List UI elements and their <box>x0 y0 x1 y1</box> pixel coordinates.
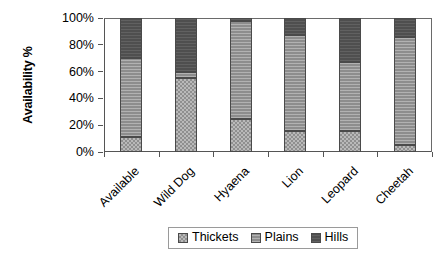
y-axis-title: Availability % <box>21 15 35 155</box>
bar-segment-thickets[interactable] <box>175 78 197 152</box>
bar-stack[interactable] <box>175 18 197 152</box>
y-tick-mark <box>98 71 103 72</box>
legend-label: Hills <box>325 231 349 244</box>
bar-segment-thickets[interactable] <box>394 145 416 152</box>
bar-segment-thickets[interactable] <box>230 119 252 153</box>
bar-stack[interactable] <box>394 18 416 152</box>
bar-segment-hills[interactable] <box>175 18 197 72</box>
x-tick-mark <box>323 152 324 157</box>
bar-segment-hills[interactable] <box>120 18 142 58</box>
y-tick-mark <box>98 18 103 19</box>
x-tick-mark <box>268 152 269 157</box>
chart-legend: ThicketsPlainsHills <box>168 227 358 249</box>
x-tick-mark <box>159 152 160 157</box>
y-axis-ticks: 0%20%40%60%80%100% <box>50 18 104 152</box>
bar-group <box>104 18 159 152</box>
y-tick-mark <box>98 125 103 126</box>
legend-swatch-plains-icon <box>251 233 261 243</box>
stacked-bar-chart: Availability % 0%20%40%60%80%100% Availa… <box>0 0 444 273</box>
bar-stack[interactable] <box>284 18 306 152</box>
x-tick-label: Available <box>0 164 142 273</box>
y-tick-label: 40% <box>48 91 94 105</box>
x-tick-mark <box>104 152 105 157</box>
bar-group <box>159 18 214 152</box>
bar-group <box>377 18 432 152</box>
y-tick-label: 100% <box>48 11 94 25</box>
bar-segment-hills[interactable] <box>230 18 252 21</box>
legend-label: Thickets <box>192 231 239 244</box>
bar-segment-thickets[interactable] <box>120 137 142 152</box>
bar-group <box>323 18 378 152</box>
legend-item-plains[interactable]: Plains <box>251 231 299 244</box>
bar-group <box>268 18 323 152</box>
y-tick-mark <box>98 44 103 45</box>
y-tick-mark <box>98 98 103 99</box>
y-tick-label: 0% <box>48 145 94 159</box>
bar-stack[interactable] <box>230 18 252 152</box>
bar-segment-plains[interactable] <box>284 35 306 130</box>
bar-stack[interactable] <box>120 18 142 152</box>
bar-segment-hills[interactable] <box>339 18 361 62</box>
x-tick-mark <box>377 152 378 157</box>
legend-item-hills[interactable]: Hills <box>311 231 349 244</box>
x-tick-mark <box>213 152 214 157</box>
bar-segment-plains[interactable] <box>120 58 142 137</box>
bar-stack[interactable] <box>339 18 361 152</box>
bar-segment-thickets[interactable] <box>339 131 361 152</box>
legend-item-thickets[interactable]: Thickets <box>178 231 239 244</box>
y-tick-label: 80% <box>48 38 94 52</box>
bar-segment-hills[interactable] <box>284 18 306 35</box>
y-tick-label: 60% <box>48 65 94 79</box>
y-tick-mark <box>98 152 103 153</box>
bar-segment-plains[interactable] <box>339 62 361 130</box>
bar-segment-plains[interactable] <box>175 72 197 79</box>
x-tick-mark <box>432 152 433 157</box>
bar-segment-thickets[interactable] <box>284 131 306 152</box>
legend-swatch-hills-icon <box>311 233 321 243</box>
bar-segment-hills[interactable] <box>394 18 416 37</box>
bar-segment-plains[interactable] <box>394 37 416 146</box>
bar-segment-plains[interactable] <box>230 21 252 119</box>
bars-layer <box>104 18 432 152</box>
y-tick-label: 20% <box>48 118 94 132</box>
legend-swatch-thickets-icon <box>178 233 188 243</box>
legend-label: Plains <box>265 231 299 244</box>
bar-group <box>213 18 268 152</box>
